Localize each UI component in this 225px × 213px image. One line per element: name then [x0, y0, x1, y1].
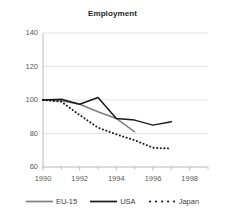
x-tick-label-1998: 1998 [181, 174, 198, 183]
legend-item-usa[interactable]: USA [90, 197, 135, 206]
legend-label-japan: Japan [179, 197, 199, 206]
legend-label-usa: USA [120, 197, 135, 206]
legend-swatch-japan-icon [149, 198, 176, 205]
chart-plot-area: 140 120 100 80 60 1990 1992 1994 1996 19… [0, 0, 225, 213]
x-tick-label-1992: 1992 [71, 174, 88, 183]
legend-item-japan[interactable]: Japan [149, 197, 199, 206]
legend-item-eu-15[interactable]: EU-15 [26, 197, 77, 206]
legend-label-eu-15: EU-15 [56, 197, 77, 206]
x-tick-label-1994: 1994 [108, 174, 125, 183]
y-tick-label-60: 60 [30, 162, 38, 171]
series-line-eu-15 [43, 100, 135, 132]
legend-swatch-eu-15-icon [26, 198, 53, 205]
legend-swatch-usa-icon [90, 198, 117, 205]
y-tick-label-120: 120 [25, 62, 38, 71]
x-tick-label-1996: 1996 [145, 174, 162, 183]
chart-container: Employment 140 120 100 80 60 1990 1992 1… [0, 0, 225, 213]
y-tick-label-140: 140 [25, 28, 38, 37]
chart-legend: EU-15 USA Japan [0, 192, 225, 210]
y-tick-label-100: 100 [25, 95, 38, 104]
y-tick-label-80: 80 [30, 129, 38, 138]
x-tick-label-1990: 1990 [35, 174, 52, 183]
